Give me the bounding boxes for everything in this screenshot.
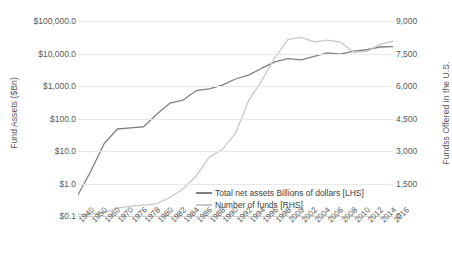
gridline (78, 184, 393, 185)
gridline (78, 21, 393, 22)
gridline (78, 119, 393, 120)
y-axis-right-tick-label: 4,500 (396, 114, 436, 124)
y-axis-right-tick-label: 1,500 (396, 179, 436, 189)
y-axis-right-ticks: 01,5003,0004,5006,0007,5009,000 (396, 0, 436, 264)
y-axis-left-tick-label: $1.0 (6, 179, 76, 189)
y-axis-right-tick-label: 9,000 (396, 16, 436, 26)
gridline (78, 54, 393, 55)
legend-swatch-total-net-assets (196, 192, 212, 194)
y-axis-right-title: Fundss Offered in the U.S. (441, 43, 451, 183)
y-axis-left-tick-label: $1,000.0 (6, 81, 76, 91)
y-axis-left-tick-label: $100.0 (6, 114, 76, 124)
gridline (78, 151, 393, 152)
y-axis-right-tick-label: 6,000 (396, 81, 436, 91)
gridline (78, 86, 393, 87)
legend-label-number-of-funds: Number of funds [RHS] (215, 199, 303, 211)
y-axis-left-tick-label: $0.1 (6, 211, 76, 221)
x-axis-ticks: 1940195019601970197619781980198219841986… (78, 218, 393, 262)
y-axis-right-tick-label: 3,000 (396, 146, 436, 156)
legend-item-total-net-assets: Total net assets Billions of dollars [LH… (196, 187, 364, 199)
legend-label-total-net-assets: Total net assets Billions of dollars [LH… (215, 187, 364, 199)
y-axis-left-ticks: $0.1$1.0$10.0$100.0$1,000.0$10,000.0$100… (4, 0, 76, 264)
y-axis-left-tick-label: $100,000.0 (6, 16, 76, 26)
chart-figure: Fund Assets ($Bn) Fundss Offered in the … (0, 0, 452, 264)
legend-item-number-of-funds: Number of funds [RHS] (196, 199, 364, 211)
legend-swatch-number-of-funds (196, 204, 212, 206)
y-axis-left-tick-label: $10.0 (6, 146, 76, 156)
chart-legend: Total net assets Billions of dollars [LH… (196, 187, 364, 211)
y-axis-left-tick-label: $10,000.0 (6, 49, 76, 59)
y-axis-right-tick-label: 7,500 (396, 49, 436, 59)
